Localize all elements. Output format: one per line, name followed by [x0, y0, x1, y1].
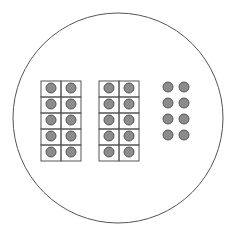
counter-dot — [124, 131, 134, 141]
counter-dot — [46, 83, 56, 93]
loose-counter-dot — [163, 98, 173, 108]
loose-counters — [163, 82, 189, 140]
counter-dot — [124, 115, 134, 125]
counter-dot — [46, 131, 56, 141]
counting-diagram — [0, 0, 231, 237]
ten-frame-1 — [41, 81, 81, 161]
counter-dot — [66, 131, 76, 141]
counter-dot — [46, 147, 56, 157]
loose-counter-dot — [179, 130, 189, 140]
counter-dot — [66, 99, 76, 109]
loose-counter-dot — [179, 98, 189, 108]
loose-counter-dot — [179, 82, 189, 92]
counter-dot — [104, 115, 114, 125]
enclosing-circle — [13, 13, 223, 223]
counter-dot — [124, 147, 134, 157]
loose-counter-dot — [163, 82, 173, 92]
counter-dot — [124, 83, 134, 93]
counter-dot — [104, 99, 114, 109]
ten-frames — [41, 81, 139, 161]
ten-frame-2 — [99, 81, 139, 161]
counter-dot — [46, 115, 56, 125]
counter-dot — [66, 83, 76, 93]
loose-counter-dot — [163, 114, 173, 124]
counter-dot — [104, 147, 114, 157]
counter-dot — [124, 99, 134, 109]
counter-dot — [104, 83, 114, 93]
loose-counter-dot — [163, 130, 173, 140]
enclosing-circle-outline — [13, 13, 223, 223]
counter-dot — [66, 147, 76, 157]
loose-counter-dot — [179, 114, 189, 124]
counter-dot — [66, 115, 76, 125]
counter-dot — [104, 131, 114, 141]
counter-dot — [46, 99, 56, 109]
